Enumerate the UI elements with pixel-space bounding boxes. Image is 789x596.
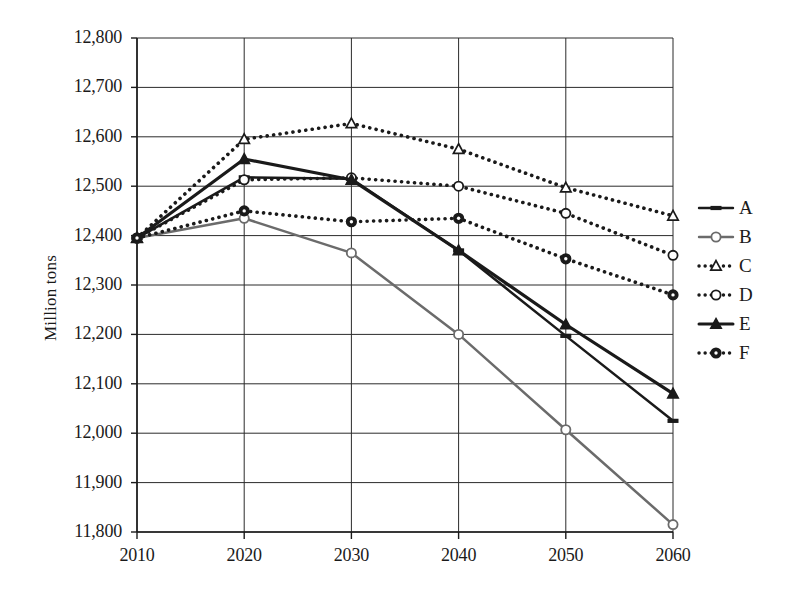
- dotted-open-circle-key: [697, 286, 735, 304]
- data-point-marker: [711, 348, 721, 358]
- dotted-open-triangle-key: [697, 257, 735, 275]
- plot-area: [0, 0, 789, 596]
- legend-label: C: [739, 256, 752, 275]
- line-open-circle-key: [697, 228, 735, 246]
- data-point-marker: [347, 248, 356, 257]
- legend-label: B: [739, 227, 752, 246]
- data-point-marker: [347, 217, 357, 227]
- legend-item-E[interactable]: E: [697, 309, 753, 338]
- data-point-marker: [711, 290, 720, 299]
- data-point-marker: [711, 232, 720, 241]
- legend-label: D: [739, 285, 753, 304]
- data-point-marker: [240, 175, 249, 184]
- data-point-marker: [668, 251, 677, 260]
- line-dash-key: [697, 199, 735, 217]
- data-point-marker: [560, 334, 571, 338]
- data-point-marker: [561, 425, 570, 434]
- data-point-marker: [239, 206, 249, 216]
- data-point-marker: [132, 233, 142, 243]
- legend-item-C[interactable]: C: [697, 251, 753, 280]
- line-chart: Million tons 11,80011,90012,00012,10012,…: [0, 0, 789, 596]
- data-point-marker: [668, 290, 678, 300]
- legend-item-B[interactable]: B: [697, 222, 753, 251]
- legend-item-D[interactable]: D: [697, 280, 753, 309]
- dotted-filled-circle-key: [697, 344, 735, 362]
- data-point-marker: [454, 214, 464, 224]
- data-point-marker: [453, 144, 463, 154]
- data-point-marker: [346, 118, 356, 128]
- legend-label: F: [739, 343, 750, 362]
- legend-label: E: [739, 314, 751, 333]
- data-point-marker: [711, 205, 722, 209]
- data-point-marker: [561, 254, 571, 264]
- legend-label: A: [739, 198, 753, 217]
- data-point-marker: [668, 419, 679, 423]
- series-line-B: [137, 218, 673, 524]
- line-filled-triangle-key: [697, 315, 735, 333]
- legend: ABCDEF: [697, 193, 753, 367]
- data-point-marker: [454, 330, 463, 339]
- data-point-marker: [561, 209, 570, 218]
- data-point-marker: [454, 182, 463, 191]
- data-point-marker: [668, 520, 677, 529]
- legend-item-A[interactable]: A: [697, 193, 753, 222]
- legend-item-F[interactable]: F: [697, 338, 753, 367]
